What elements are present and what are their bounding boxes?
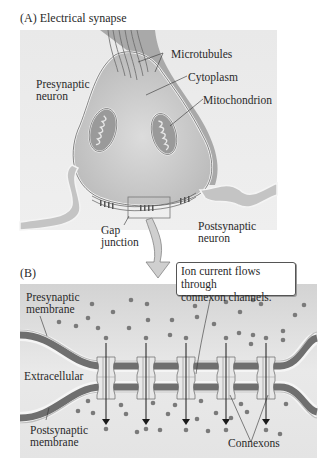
label-presynaptic-membrane-2: membrane xyxy=(26,303,75,315)
label-extracellular: Extracellular xyxy=(24,370,83,382)
label-postsynaptic-neuron-2: neuron xyxy=(198,232,230,244)
callout-line-1: Ion current flows through xyxy=(181,265,291,291)
label-microtubules: Microtubules xyxy=(171,48,232,60)
panel-b-title: (B) xyxy=(20,266,36,281)
callout-line-2: connexon channels. xyxy=(181,291,291,304)
label-cytoplasm: Cytoplasm xyxy=(188,71,238,83)
synapse-diagram xyxy=(0,0,334,474)
label-gap-junction-2: junction xyxy=(101,236,139,248)
label-presynaptic-neuron-1: Presynaptic xyxy=(36,78,90,90)
ion-current-callout: Ion current flows through connexon chann… xyxy=(176,262,296,296)
label-gap-junction-1: Gap xyxy=(101,224,120,236)
label-postsynaptic-neuron-1: Postsynaptic xyxy=(198,220,256,232)
label-connexons: Connexons xyxy=(228,437,280,449)
label-mitochondrion: Mitochondrion xyxy=(203,94,272,106)
label-presynaptic-neuron-2: neuron xyxy=(36,90,68,102)
panel-a-title: (A) Electrical synapse xyxy=(20,11,127,26)
label-postsynaptic-membrane-1: Postsynaptic xyxy=(30,424,88,436)
label-presynaptic-membrane-1: Presynaptic xyxy=(26,291,80,303)
label-postsynaptic-membrane-2: membrane xyxy=(30,436,79,448)
